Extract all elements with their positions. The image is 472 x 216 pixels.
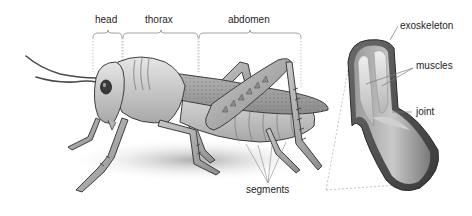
label-segments: segments: [246, 184, 289, 196]
exoskeleton-pointer: [390, 26, 398, 40]
region-brackets: [93, 30, 301, 38]
label-thorax: thorax: [145, 14, 173, 26]
label-abdomen: abdomen: [228, 14, 270, 26]
label-head: head: [95, 14, 117, 26]
grasshopper-diagram: head thorax abdomen segments exoskeleton…: [0, 0, 472, 216]
label-muscles: muscles: [416, 60, 453, 72]
label-joint: joint: [416, 106, 434, 118]
label-exoskeleton: exoskeleton: [400, 20, 453, 32]
antennae: [26, 56, 96, 82]
compound-eye: [101, 80, 112, 94]
